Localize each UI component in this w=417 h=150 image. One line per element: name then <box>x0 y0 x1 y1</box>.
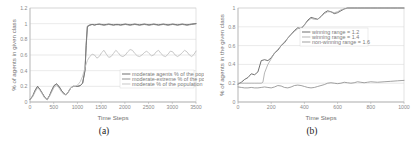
xtick-label: 1500 <box>95 104 107 110</box>
ytick-label: 1 <box>25 21 28 27</box>
chart-b: 00.20.40.60.81 02004006008001000 winning… <box>212 0 412 126</box>
ytick-label: 0.6 <box>228 43 235 49</box>
ytick-label: 0.8 <box>228 24 235 30</box>
legend-entry-label: moderate % of the population = 1.6 <box>132 81 204 87</box>
xtick-label: 2000 <box>119 104 131 110</box>
panel-a-caption: (a) <box>99 127 110 137</box>
xtick-label: 3000 <box>167 104 179 110</box>
chart-b-svg: 00.20.40.60.81 02004006008001000 winning… <box>212 0 412 126</box>
figure-container: 00.20.40.60.811.2 0500100015002000250030… <box>0 0 417 150</box>
chart-b-plot-area <box>238 8 404 102</box>
xtick-label: 2500 <box>143 104 155 110</box>
panel-b: 00.20.40.60.81 02004006008001000 winning… <box>208 0 416 150</box>
xtick-label: 400 <box>300 104 309 110</box>
chart-b-legend: winning range = 1.2winning range = 1.4no… <box>300 28 370 46</box>
ytick-label: 0 <box>233 99 236 105</box>
ytick-label: 0.4 <box>20 68 27 74</box>
xtick-label: 1000 <box>398 104 410 110</box>
panel-a: 00.20.40.60.811.2 0500100015002000250030… <box>0 0 208 150</box>
chart-b-yaxis-title: % of agents in the given class <box>218 14 225 96</box>
chart-b-xaxis-title: Time Steps <box>305 114 336 121</box>
ytick-label: 0.6 <box>20 52 27 58</box>
xtick-label: 3500 <box>190 104 202 110</box>
chart-a-yaxis-title: % of agents in given class <box>10 19 17 91</box>
chart-a-xaxis-title: Time Steps <box>97 114 128 121</box>
xtick-label: 0 <box>29 104 32 110</box>
chart-a-legend: moderate agents % of the population = 1.… <box>120 70 204 88</box>
panel-b-caption: (b) <box>306 127 317 137</box>
xtick-label: 200 <box>267 104 276 110</box>
xtick-label: 500 <box>49 104 58 110</box>
xtick-label: 0 <box>237 104 240 110</box>
ytick-label: 0.4 <box>228 61 235 67</box>
xtick-label: 1000 <box>72 104 84 110</box>
legend-entry-label: non-winning range = 1.6 <box>312 39 370 45</box>
ytick-label: 0.8 <box>20 36 27 42</box>
chart-a: 00.20.40.60.811.2 0500100015002000250030… <box>4 0 204 126</box>
ytick-label: 1.2 <box>20 5 27 11</box>
xtick-label: 800 <box>366 104 375 110</box>
ytick-label: 0.2 <box>228 80 235 86</box>
chart-a-svg: 00.20.40.60.811.2 0500100015002000250030… <box>4 0 204 126</box>
ytick-label: 1 <box>233 5 236 11</box>
xtick-label: 600 <box>333 104 342 110</box>
ytick-label: 0.2 <box>20 83 27 89</box>
ytick-label: 0 <box>25 99 28 105</box>
